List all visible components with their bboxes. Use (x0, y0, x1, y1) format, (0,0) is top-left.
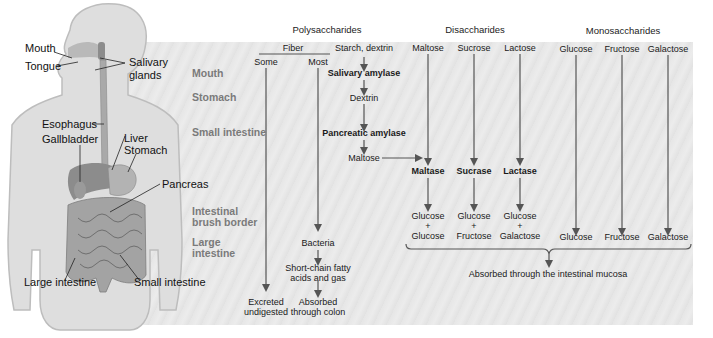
organ-label-gallbladder: Gallbladder (42, 133, 98, 146)
lactase-product-b: Galactose (500, 231, 541, 242)
enzyme-lactase: Lactase (503, 166, 537, 177)
pancreatic-amylase: Pancreatic amylase (322, 128, 406, 139)
organ-label-salivary-1: Salivary (129, 56, 168, 69)
sucrase-product-b: Fructose (456, 231, 491, 242)
absorption-label: Absorbed through the intestinal mucosa (469, 269, 628, 280)
region-large-intestine-2: intestine (192, 247, 235, 259)
disaccharide-sucrose: Sucrose (457, 43, 490, 54)
mono-fructose: Fructose (604, 44, 639, 55)
dextrin: Dextrin (350, 93, 379, 104)
disaccharide-maltose: Maltose (412, 43, 444, 54)
organ-label-esophagus: Esophagus (42, 118, 97, 131)
mono-fructose-product: Fructose (604, 232, 639, 243)
starch-maltose: Maltose (348, 153, 380, 164)
header-polysaccharides: Polysaccharides (292, 24, 361, 35)
header-monosaccharides: Monosaccharides (586, 25, 660, 36)
organ-label-mouth: Mouth (25, 42, 56, 55)
fiber-scfa-2: acids and gas (290, 273, 346, 284)
header-disaccharides: Disaccharides (445, 24, 505, 35)
region-mouth: Mouth (192, 67, 224, 79)
organ-label-salivary-2: glands (129, 69, 161, 82)
enzyme-sucrase: Sucrase (456, 166, 491, 177)
starch-label: Starch, dextrin (335, 43, 393, 54)
absorption-brace (406, 244, 691, 254)
organ-label-stomach: Stomach (124, 144, 167, 157)
region-stomach: Stomach (192, 91, 236, 103)
organ-label-tongue: Tongue (25, 60, 61, 73)
mono-glucose: Glucose (559, 44, 592, 55)
organ-label-large-intestine: Large intestine (24, 276, 96, 289)
fiber-excreted-2: undigested (244, 307, 288, 318)
fiber-bacteria: Bacteria (301, 238, 334, 249)
maltase-product-b: Glucose (411, 231, 444, 242)
mono-glucose-product: Glucose (559, 232, 592, 243)
salivary-amylase: Salivary amylase (328, 68, 401, 79)
mono-galactose-product: Galactose (648, 232, 689, 243)
organ-label-small-intestine: Small intestine (134, 276, 206, 289)
mono-galactose: Galactose (648, 44, 689, 55)
fiber-absorbed-2: through colon (291, 307, 346, 318)
fiber-most: Most (308, 57, 328, 68)
fiber-label: Fiber (283, 43, 304, 54)
fiber-some: Some (254, 57, 278, 68)
organ-label-pancreas: Pancreas (162, 178, 208, 191)
enzyme-maltase: Maltase (411, 166, 444, 177)
disaccharide-lactose: Lactose (504, 43, 536, 54)
region-small-intestine: Small intestine (192, 126, 266, 138)
region-brush-border-2: brush border (192, 216, 257, 228)
